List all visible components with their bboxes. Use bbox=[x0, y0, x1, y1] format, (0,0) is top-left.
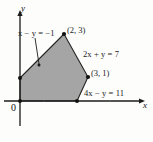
vertex-dot-origin bbox=[18, 99, 22, 103]
vertex-dot-y-intercept bbox=[18, 76, 22, 80]
vertex-label-2-3: (2, 3) bbox=[67, 26, 85, 35]
constraint-label-x-minus-y: x − y = −1 bbox=[18, 29, 55, 38]
figure-canvas bbox=[0, 0, 153, 142]
constraint-label-2x-plus-y: 2x + y = 7 bbox=[83, 50, 119, 59]
vertex-dot-2-3 bbox=[62, 32, 66, 36]
vertex-dot-3-1 bbox=[86, 75, 90, 79]
origin-label: 0 bbox=[11, 103, 16, 113]
vertex-label-3-1: (3, 1) bbox=[91, 69, 109, 78]
feasible-region-figure: y x 0 x − y = −1 2x + y = 7 4x − y = 11 … bbox=[0, 0, 153, 142]
constraint-label-4x-minus-y: 4x − y = 11 bbox=[84, 89, 124, 98]
x-axis-label: x bbox=[143, 101, 147, 110]
feasible-region-polygon bbox=[20, 34, 88, 101]
x-axis-tick-mark bbox=[109, 100, 110, 101]
vertex-dot-x-intercept bbox=[75, 99, 79, 103]
constraint-leader-line bbox=[35, 38, 39, 64]
y-axis-label: y bbox=[21, 4, 25, 13]
constraint-leader-endpoint bbox=[38, 64, 41, 67]
x-axis-tick-mark bbox=[43, 100, 45, 102]
